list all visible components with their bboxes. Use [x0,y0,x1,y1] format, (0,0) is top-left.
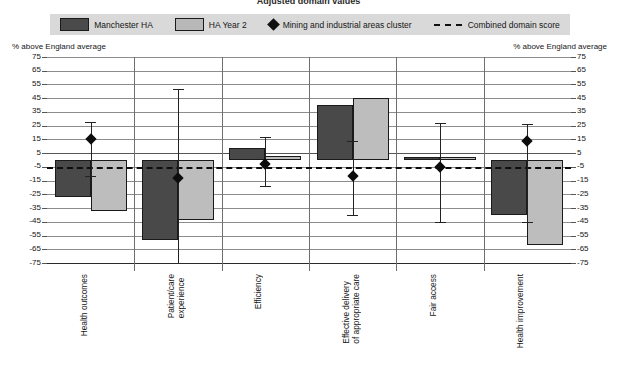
legend-item-ha-year-2: HA Year 2 [175,18,247,31]
legend-label: Manchester HA [94,20,153,30]
category-separator-tick [396,263,397,271]
bar [404,157,440,160]
y-axis-tick-mark [571,98,576,99]
y-axis-tick-label: -75 [15,258,41,267]
y-axis-tick-label: -15 [15,175,41,184]
chart-legend: Manchester HA HA Year 2 Mining and indus… [50,14,570,35]
category-separator-tick [222,263,223,271]
y-axis-tick-label: 35 [15,106,41,115]
y-axis-tick-label: 45 [577,93,603,102]
error-bar-cap [435,123,446,124]
y-axis-tick-label: 65 [15,65,41,74]
legend-item-manchester-ha: Manchester HA [60,18,153,31]
y-axis-tick-mark [571,263,576,264]
y-axis-tick-mark [42,57,47,58]
x-axis-category-label: Efficiency [253,274,263,309]
y-axis-tick-mark [571,71,576,72]
y-axis-caption-right: % above England average [513,42,607,51]
light-square-swatch-icon [175,18,204,31]
error-bar-cap [347,215,358,216]
y-axis-tick-label: -15 [577,175,603,184]
y-axis-tick-label: 35 [577,106,603,115]
category-separator [484,57,485,263]
y-axis-tick-mark [42,98,47,99]
x-axis-category-label: Effective delivery of appropriate care [341,274,361,344]
y-axis-tick-mark [42,208,47,209]
y-axis-tick-label: 65 [577,65,603,74]
y-axis-tick-mark [42,249,47,250]
y-axis-tick-label: -35 [577,203,603,212]
y-axis-tick-mark [571,84,576,85]
y-axis-tick-label: 55 [577,79,603,88]
error-bar [91,122,92,177]
bar [142,160,178,240]
legend-label: HA Year 2 [209,20,247,30]
y-axis-tick-label: -75 [577,258,603,267]
y-axis-tick-label: 25 [577,120,603,129]
category-separator [134,57,135,263]
y-axis-tick-label: -55 [15,230,41,239]
error-bar-cap [260,186,271,187]
y-axis-tick-label: -5 [577,161,603,170]
y-axis-tick-mark [42,139,47,140]
y-axis-tick-label: -45 [15,216,41,225]
y-axis-tick-mark [42,194,47,195]
y-axis-tick-mark [571,112,576,113]
error-bar-cap [522,124,533,125]
plot-area: 757565655555454535352525151555-5-5-15-15… [47,57,571,263]
error-bar-cap [173,89,184,90]
cluster-diamond-marker [85,134,96,145]
legend-label: Combined domain score [468,20,560,30]
combined-domain-score-line [47,167,571,169]
y-axis-tick-label: 55 [15,79,41,88]
bar [317,105,353,160]
error-bar-cap [85,176,96,177]
bar [55,160,91,197]
y-axis-tick-label: 75 [577,52,603,61]
y-axis-tick-label: 45 [15,93,41,102]
y-axis-tick-mark [571,126,576,127]
y-axis-tick-mark [571,139,576,140]
y-axis-tick-mark [42,112,47,113]
y-axis-tick-mark [571,222,576,223]
error-bar-cap [85,122,96,123]
y-axis-tick-mark [571,194,576,195]
chart-title: Adjusted domain values [0,0,617,6]
legend-item-mining-cluster: Mining and industrial areas cluster [269,20,412,30]
legend-item-combined-domain-score: Combined domain score [434,20,560,30]
x-axis-category-label: Fair access [428,274,438,316]
error-bar-cap [522,222,533,223]
y-axis-caption-left: % above England average [12,42,106,51]
bar [527,160,563,245]
bar [353,98,389,160]
y-axis-tick-mark [571,167,576,168]
x-axis-category-label: Health outcomes [79,274,89,336]
category-separator [396,57,397,263]
category-separator-tick [134,263,135,271]
y-axis-tick-label: -65 [15,244,41,253]
error-bar-cap [260,137,271,138]
category-separator [222,57,223,263]
y-axis-tick-label: -35 [15,203,41,212]
y-axis-tick-mark [42,153,47,154]
y-axis-tick-label: 15 [577,134,603,143]
dashed-line-icon [434,24,462,26]
y-axis-tick-label: -5 [15,161,41,170]
y-axis-tick-mark [42,222,47,223]
y-axis-tick-mark [571,249,576,250]
error-bar-cap [435,222,446,223]
y-axis-tick-label: 75 [15,52,41,61]
y-axis-tick-mark [571,181,576,182]
y-axis-tick-mark [571,236,576,237]
legend-label: Mining and industrial areas cluster [283,20,412,30]
y-axis-tick-mark [571,57,576,58]
y-axis-tick-label: -65 [577,244,603,253]
y-axis-tick-label: 5 [577,148,603,157]
y-axis-tick-label: -25 [577,189,603,198]
y-axis-tick-label: -55 [577,230,603,239]
bar [440,157,476,160]
y-axis-tick-mark [42,126,47,127]
y-axis-tick-label: 5 [15,148,41,157]
y-axis-tick-label: 25 [15,120,41,129]
category-separator-tick [309,263,310,271]
